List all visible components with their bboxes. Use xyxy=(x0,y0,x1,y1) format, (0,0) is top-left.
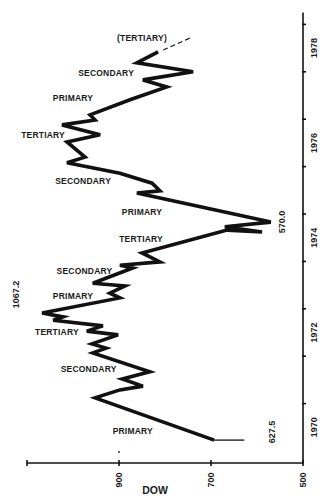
phase-label-secondary: SECONDARY xyxy=(55,176,111,186)
phase-label-secondary: SECONDARY xyxy=(57,266,113,276)
year-label-1972: 1972 xyxy=(309,322,319,342)
value-label: 627.5 xyxy=(267,421,277,444)
year-label-1976: 1976 xyxy=(309,133,319,153)
dow-axis: 900700500DOW xyxy=(27,460,308,496)
series-line-thick xyxy=(42,52,271,440)
phase-label-secondary: SECONDARY xyxy=(61,364,117,374)
time-axis: 19701972197419761978 xyxy=(302,12,319,463)
dow-phases-chart: 627.51067.2570.0PRIMARYSECONDARYTERTIARY… xyxy=(0,0,332,503)
year-label-1974: 1974 xyxy=(309,228,319,248)
phase-label-tertiary: TERTIARY xyxy=(119,234,163,244)
dow-axis-title: DOW xyxy=(142,484,168,496)
phase-label-primary: PRIMARY xyxy=(53,93,93,103)
dow-tick-label-900: 900 xyxy=(114,472,124,487)
phase-label-primary: PRIMARY xyxy=(122,207,162,217)
value-label: 570.0 xyxy=(277,211,287,234)
year-label-1970: 1970 xyxy=(309,417,319,437)
phase-label-primary: PRIMARY xyxy=(53,291,93,301)
dow-tick-label-700: 700 xyxy=(206,472,216,487)
year-label-1978: 1978 xyxy=(309,38,319,58)
phase-label-primary: PRIMARY xyxy=(113,426,153,436)
phase-label-secondary: SECONDARY xyxy=(78,68,134,78)
phase-label-tertiary: TERTIARY xyxy=(35,327,79,337)
phase-label-tertiary: TERTIARY xyxy=(21,130,65,140)
dow-tick-label-500: 500 xyxy=(298,472,308,487)
phase-label-tertiary: (TERTIARY) xyxy=(117,33,167,43)
series-line-dashed xyxy=(163,38,190,50)
stray-dot xyxy=(118,451,120,453)
value-label: 1067.2 xyxy=(11,281,21,309)
